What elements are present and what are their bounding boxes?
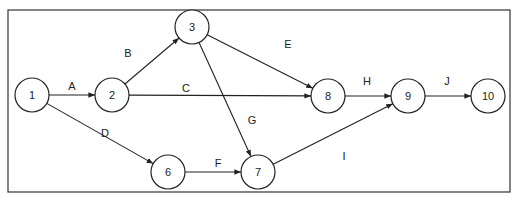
node-label: 3	[189, 21, 195, 33]
edge-g: G	[199, 42, 256, 156]
edge-a: A	[49, 80, 95, 95]
node-label: 9	[405, 90, 411, 102]
node-label: 8	[325, 90, 331, 102]
edge-label: D	[101, 127, 109, 139]
nodes-layer: 123678910	[15, 10, 505, 189]
arrow-icon	[199, 42, 251, 156]
arrow-icon	[47, 103, 153, 163]
edge-label: J	[444, 75, 450, 87]
edge-label: E	[284, 38, 291, 50]
node-6: 6	[151, 155, 185, 189]
node-2: 2	[95, 78, 129, 112]
edge-label: A	[68, 80, 76, 92]
edge-label: I	[342, 150, 345, 162]
edge-h: H	[345, 75, 391, 96]
edge-j: J	[425, 75, 471, 96]
edge-label: G	[248, 114, 257, 126]
edge-label: B	[124, 47, 131, 59]
node-label: 2	[109, 89, 115, 101]
edge-label: H	[363, 75, 371, 87]
node-label: 1	[29, 89, 35, 101]
node-8: 8	[311, 79, 345, 113]
network-diagram: ABCDEFGHIJ 123678910	[0, 0, 520, 197]
arrow-icon	[129, 95, 311, 96]
edge-b: B	[124, 38, 179, 84]
edge-label: F	[215, 157, 222, 169]
node-label: 10	[482, 90, 494, 102]
node-9: 9	[391, 79, 425, 113]
node-label: 7	[255, 166, 261, 178]
node-label: 6	[165, 166, 171, 178]
node-7: 7	[241, 155, 275, 189]
edge-e: E	[207, 35, 313, 89]
node-1: 1	[15, 78, 49, 112]
node-10: 10	[471, 79, 505, 113]
edge-d: D	[47, 103, 153, 163]
arrow-icon	[207, 35, 313, 89]
node-3: 3	[175, 10, 209, 44]
edge-label: C	[182, 82, 190, 94]
arrow-icon	[125, 38, 179, 84]
edge-f: F	[185, 157, 241, 172]
